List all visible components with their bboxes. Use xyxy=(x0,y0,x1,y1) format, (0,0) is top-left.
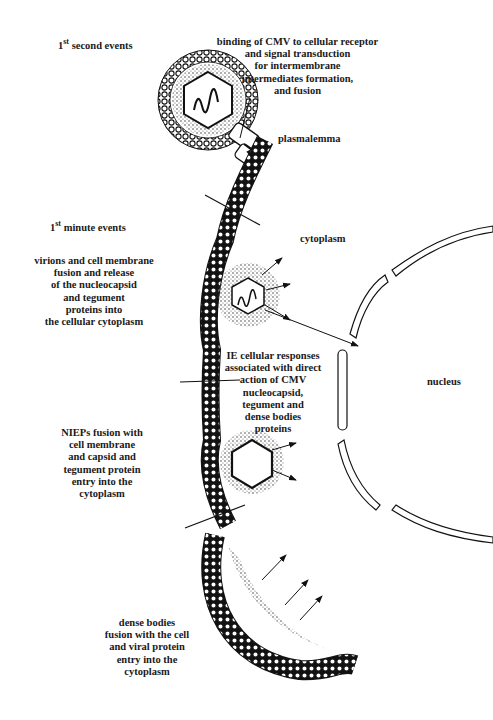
nuclear-envelope xyxy=(338,226,493,543)
label-cytoplasm: cytoplasm xyxy=(300,233,346,245)
label-ie-responses: IE cellular responses associated with di… xyxy=(218,350,328,435)
label-plasmalemma: plasmalemma xyxy=(278,133,340,145)
label-dense-bodies: dense bodies fusion with the cell and vi… xyxy=(92,617,202,678)
label-nucleus: nucleus xyxy=(427,376,461,388)
label-binding-receptor: binding of CMV to cellular receptor and … xyxy=(200,36,395,97)
heading-first-minute-events: 1st minute events xyxy=(50,218,126,234)
released-nucleocapsid xyxy=(216,258,358,346)
label-niep-fusion: NIEPs fusion with cell membrane and caps… xyxy=(52,427,152,500)
label-virions-fusion: virions and cell membrane fusion and rel… xyxy=(28,255,160,328)
heading-first-second-events: 1st second events xyxy=(58,36,133,52)
dense-body-fusion xyxy=(211,535,355,670)
niep-particle xyxy=(220,430,296,494)
